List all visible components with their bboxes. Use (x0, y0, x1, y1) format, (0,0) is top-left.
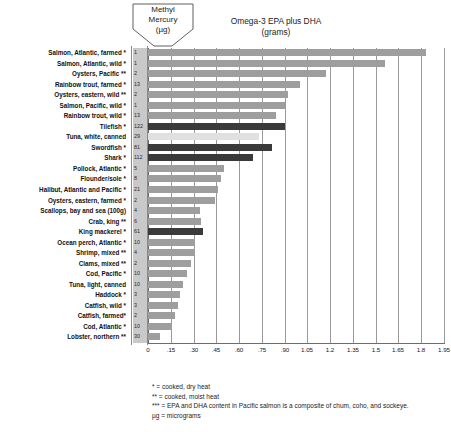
category-label: Cod, Atlantic * (0, 322, 128, 331)
bar (148, 260, 191, 267)
mercury-value: 1 (133, 48, 147, 57)
bar (148, 197, 215, 204)
bar (148, 249, 195, 256)
chart-row: Cod, Atlantic *10 (0, 322, 451, 333)
bar (148, 239, 195, 246)
chart-row: Catfish, wild *3 (0, 301, 451, 312)
bar (148, 70, 326, 77)
chart-row: Tuna, light, canned10 (0, 280, 451, 291)
category-label: Clams, mixed ** (0, 259, 128, 268)
bar (148, 291, 180, 298)
mercury-value: 10 (133, 238, 147, 247)
bar (148, 270, 187, 277)
category-label: Haddock * (0, 290, 128, 299)
bar (148, 123, 285, 130)
category-label: Shrimp, mixed ** (0, 248, 128, 257)
chart-row: Cod, Pacific *10 (0, 269, 451, 280)
footnote-line: *** = EPA and DHA content in Pacific sal… (152, 401, 447, 411)
category-label: Oysters, eastern, wild ** (0, 90, 128, 99)
mercury-value: 4 (133, 206, 147, 215)
mercury-value: 112 (133, 153, 147, 162)
mercury-value: 5 (133, 164, 147, 173)
bar (148, 312, 175, 319)
chart-row: Shrimp, mixed **4 (0, 248, 451, 259)
x-tick-label: 1.95 (431, 346, 451, 353)
chart-row: Salmon, Atlantic, wild *1 (0, 59, 451, 70)
bar (148, 91, 288, 98)
category-label: Oysters, eastern, farmed * (0, 196, 128, 205)
mercury-value: 8 (133, 174, 147, 183)
category-label: Halibut, Atlantic and Pacific * (0, 185, 128, 194)
mercury-value: 1 (133, 59, 147, 68)
category-label: Pollock, Atlantic * (0, 164, 128, 173)
chart-canvas: Methyl Mercury (µg) Omega-3 EPA plus DHA… (0, 0, 451, 443)
chart-row: Crab, king **6 (0, 217, 451, 228)
category-label: Rainbow trout, farmed * (0, 80, 128, 89)
mercury-value: 2 (133, 311, 147, 320)
chart-row: Oysters, Pacific **2 (0, 69, 451, 80)
category-label: Crab, king ** (0, 217, 128, 226)
bar (148, 281, 183, 288)
x-axis-line (148, 343, 445, 344)
chart-row: Flounder/sole *8 (0, 174, 451, 185)
chart-row: Clams, mixed **2 (0, 259, 451, 270)
mercury-axis-title-line3: (µg) (133, 25, 193, 35)
mercury-value: 21 (133, 185, 147, 194)
mercury-value: 4 (133, 248, 147, 257)
chart-row: Swordfish *81 (0, 143, 451, 154)
mercury-value: 2 (133, 90, 147, 99)
chart-row: Pollock, Atlantic *5 (0, 164, 451, 175)
chart-row: Lobster, northern **30 (0, 332, 451, 343)
mercury-value: 2 (133, 196, 147, 205)
bar (148, 133, 259, 140)
chart-row: Halibut, Atlantic and Pacific *21 (0, 185, 451, 196)
chart-row: Oysters, eastern, wild **2 (0, 90, 451, 101)
bar (148, 207, 200, 214)
category-label: Tilefish * (0, 122, 128, 131)
chart-row: Salmon, Atlantic, farmed *1 (0, 48, 451, 59)
chart-row: Catfish, farmed*2 (0, 311, 451, 322)
mercury-value: 30 (133, 332, 147, 341)
chart-row: Salmon, Pacific, wild *1 (0, 101, 451, 112)
category-label: Salmon, Atlantic, wild * (0, 59, 128, 68)
category-label: Oysters, Pacific ** (0, 69, 128, 78)
category-label: Swordfish * (0, 143, 128, 152)
category-label: Scallops, bay and sea (100g) (0, 206, 128, 215)
bar (148, 302, 178, 309)
chart-row: Rainbow trout, wild *13 (0, 111, 451, 122)
chart-row: Ocean perch, Atlantic *10 (0, 238, 451, 249)
mercury-value: 3 (133, 290, 147, 299)
chart-row: Oysters, eastern, farmed *2 (0, 196, 451, 207)
mercury-value: 6 (133, 217, 147, 226)
chart-row: King mackerel *61 (0, 227, 451, 238)
footnote-line: ** = cooked, moist heat (152, 392, 447, 402)
mercury-value: 13 (133, 80, 147, 89)
category-label: Rainbow trout, wild * (0, 111, 128, 120)
mercury-value: 13 (133, 111, 147, 120)
mercury-axis-title-line2: Mercury (133, 15, 193, 25)
bar (148, 333, 160, 340)
chart-title: Omega-3 EPA plus DHA (grams) (196, 16, 356, 38)
category-label: Flounder/sole * (0, 174, 128, 183)
footnotes: * = cooked, dry heat** = cooked, moist h… (152, 382, 447, 420)
category-label: Lobster, northern ** (0, 332, 128, 341)
category-label: Cod, Pacific * (0, 269, 128, 278)
bar (148, 144, 272, 151)
category-label: Tuna, white, canned (0, 132, 128, 141)
category-label: Ocean perch, Atlantic * (0, 238, 128, 247)
mercury-value: 2 (133, 259, 147, 268)
mercury-value: 10 (133, 269, 147, 278)
chart-row: Shark *112 (0, 153, 451, 164)
mercury-axis-title: Methyl Mercury (µg) (133, 5, 193, 45)
mercury-value: 61 (133, 227, 147, 236)
category-label: Catfish, farmed* (0, 311, 128, 320)
bar (148, 228, 203, 235)
mercury-value: 1 (133, 101, 147, 110)
chart-row: Tilefish *122 (0, 122, 451, 133)
category-label: King mackerel * (0, 227, 128, 236)
bar (148, 112, 276, 119)
mercury-axis-title-line1: Methyl (133, 5, 193, 15)
category-label: Catfish, wild * (0, 301, 128, 310)
mercury-value: 81 (133, 143, 147, 152)
mercury-value: 2 (133, 69, 147, 78)
